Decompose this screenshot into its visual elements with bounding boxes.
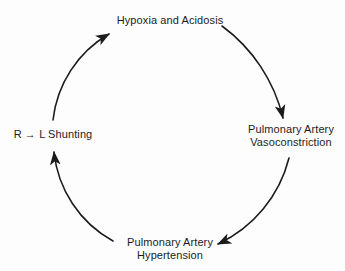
arrow-hypertension-to-shunting bbox=[54, 152, 113, 241]
cycle-diagram: Hypoxia and Acidosis Pulmonary Artery Va… bbox=[0, 0, 345, 271]
node-r-to-l-shunting: R → L Shunting bbox=[14, 128, 93, 141]
node-hypertension-label-line2: Hypertension bbox=[127, 249, 213, 262]
node-hypoxia-and-acidosis: Hypoxia and Acidosis bbox=[117, 14, 224, 27]
node-vasoconstriction-label-line2: Vasoconstriction bbox=[248, 136, 334, 149]
node-shunting-label: R → L Shunting bbox=[14, 128, 93, 141]
arrow-hypoxia-to-vasoconstriction bbox=[222, 26, 283, 118]
arrow-vasoconstriction-to-hypertension bbox=[218, 158, 289, 244]
node-vasoconstriction-label-line1: Pulmonary Artery bbox=[248, 123, 334, 136]
arrow-shunting-to-hypoxia bbox=[53, 34, 109, 120]
node-pulmonary-artery-vasoconstriction: Pulmonary Artery Vasoconstriction bbox=[248, 123, 334, 149]
node-pulmonary-artery-hypertension: Pulmonary Artery Hypertension bbox=[127, 236, 213, 262]
node-hypertension-label-line1: Pulmonary Artery bbox=[127, 236, 213, 249]
node-hypoxia-and-acidosis-label: Hypoxia and Acidosis bbox=[117, 14, 224, 27]
